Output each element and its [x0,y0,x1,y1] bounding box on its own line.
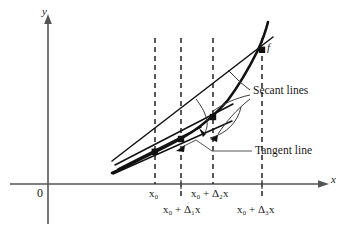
tick-label-x0-d1: x₀ + Δ₁x [163,204,200,215]
origin-label: 0 [37,187,43,199]
annotation-tangent-line: Tangent line [255,145,312,157]
point-marker-x0 [152,149,158,155]
tick-label-x0: x₀ [149,188,158,199]
leader-tangent [180,140,252,151]
secant-line-3 [112,37,273,161]
tick-label-x0-d3: x₀ + Δ₃x [237,204,274,215]
arrowhead-secant-2 [210,135,218,142]
x-axis-arrowhead [318,180,329,187]
tangent-line [113,121,232,174]
x-axis-label: x [331,174,336,185]
y-axis-label: y [42,6,47,17]
function-curve-f [112,22,268,173]
point-marker-d1 [178,136,184,142]
annotation-secant-lines: Secant lines [253,85,308,97]
curve-label-f: f [267,42,270,53]
diagram-canvas [0,0,343,230]
point-marker-d2 [210,114,216,120]
point-marker-d3 [259,47,265,53]
figure-container: y x 0 f x₀ x₀ + Δ₂x x₀ + Δ₁x x₀ + Δ₃x Se… [0,0,343,230]
tick-label-x0-d2: x₀ + Δ₂x [191,188,228,199]
